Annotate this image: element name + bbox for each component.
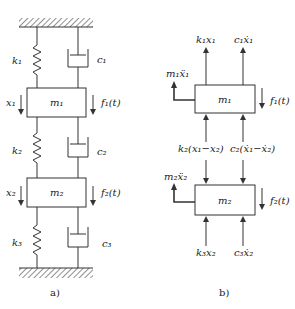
spring-k3-icon	[33, 207, 41, 268]
force-c1xdot1-label: c₁ẋ₁	[234, 34, 253, 45]
panel-a: k₁ c₁ m₁ x₁ f₁(t) k₂ c₂ m₂	[6, 18, 121, 298]
damper-c2-label: c₂	[97, 146, 107, 157]
inertia-m1-label: m₁ẍ₁	[166, 68, 189, 79]
displacement-x1-label: x₁	[6, 97, 16, 108]
bottom-ground-icon	[19, 268, 93, 278]
force-k1x1-label: k₁x₁	[196, 34, 216, 45]
inertia-m1-arrow-icon	[174, 86, 195, 100]
force-k2-label: k₂(x₁−x₂)	[178, 143, 224, 154]
spring-k3-label: k₃	[12, 237, 22, 248]
fbd-mass-m2-label: m₂	[218, 195, 232, 206]
inertia-m2-label: m₂ẍ₂	[164, 171, 187, 182]
fbd-force-f2-label: f₂(t)	[269, 195, 290, 206]
damper-c2-icon	[68, 117, 88, 178]
damper-c3-icon	[68, 207, 88, 268]
displacement-x2-label: x₂	[6, 187, 16, 198]
spring-k1-label: k₁	[12, 55, 22, 66]
force-c2-label: c₂(ẋ₁−ẋ₂)	[230, 143, 275, 154]
inertia-m2-arrow-icon	[174, 188, 195, 202]
panel-a-caption: a)	[50, 287, 60, 298]
mass-m2-label: m₂	[50, 187, 64, 198]
damper-c3-label: c₃	[102, 238, 112, 249]
spring-k2-label: k₂	[12, 145, 22, 156]
mass-m1-label: m₁	[50, 97, 64, 108]
panel-b: m₁ k₁x₁ c₁ẋ₁ m₁ẍ₁ f₁(t) k₂(x₁−x₂) c₂(ẋ₁−…	[164, 34, 290, 298]
damper-c1-label: c₁	[97, 54, 107, 65]
force-f2-label: f₂(t)	[100, 187, 121, 198]
spring-k2-icon	[33, 117, 41, 178]
damper-c1-icon	[68, 27, 88, 88]
force-c3xdot2-label: c₃ẋ₂	[234, 247, 253, 258]
panel-b-caption: b)	[219, 287, 229, 298]
force-k3x2-label: k₃x₂	[196, 247, 216, 258]
force-f1-label: f₁(t)	[100, 97, 121, 108]
spring-k1-icon	[33, 27, 41, 88]
fbd-force-f1-label: f₁(t)	[269, 95, 290, 106]
two-dof-mass-spring-damper-diagram: k₁ c₁ m₁ x₁ f₁(t) k₂ c₂ m₂	[0, 0, 295, 309]
fbd-mass-m1-label: m₁	[218, 94, 232, 105]
top-ground-icon	[19, 18, 93, 27]
